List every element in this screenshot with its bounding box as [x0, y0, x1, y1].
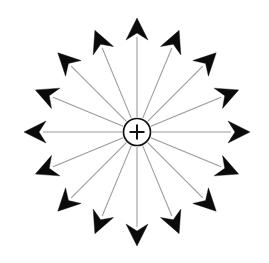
field-line-shaft [53, 97, 123, 126]
field-canvas [0, 0, 269, 263]
field-line [148, 143, 217, 212]
field-line [93, 30, 131, 118]
field-line [35, 138, 123, 176]
field-line-shaft [53, 138, 123, 167]
field-line [126, 147, 148, 246]
field-line [126, 18, 148, 117]
field-line-arrowhead [126, 224, 148, 246]
field-line [24, 121, 122, 143]
field-line-arrowhead [24, 121, 46, 143]
field-line-arrowhead [228, 121, 250, 143]
field-line-shaft [102, 48, 131, 118]
field-line-shaft [102, 146, 131, 216]
field-line [152, 121, 250, 143]
point-charge [124, 119, 151, 146]
field-line [148, 53, 217, 122]
field-line-arrowhead [126, 18, 148, 40]
field-line [143, 30, 181, 118]
field-line-shaft [71, 143, 126, 198]
field-line [93, 146, 131, 234]
field-line [151, 138, 239, 176]
field-line-shaft [143, 48, 172, 118]
field-line-shaft [148, 143, 203, 198]
field-line-shaft [143, 146, 172, 216]
electric-field-diagram: Electric field of a positive point charg… [0, 0, 269, 263]
field-line-shaft [71, 66, 126, 121]
field-line-shaft [148, 66, 203, 121]
field-line-shaft [151, 97, 221, 126]
field-line [143, 146, 181, 234]
field-line [35, 88, 123, 126]
field-line [58, 53, 127, 122]
field-line [151, 88, 239, 126]
field-line [58, 143, 127, 212]
field-line-shaft [151, 138, 221, 167]
